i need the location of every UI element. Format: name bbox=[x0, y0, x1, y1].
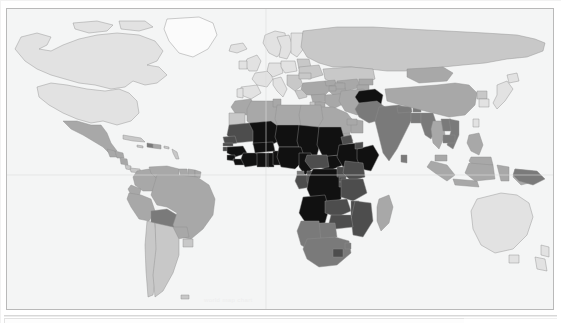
country-suriname bbox=[188, 169, 195, 177]
country-nicaragua bbox=[120, 158, 128, 165]
country-kyrgyzstan bbox=[359, 79, 373, 85]
country-tasmania bbox=[509, 255, 519, 263]
country-new-zealand-south bbox=[535, 257, 547, 271]
country-mongolia bbox=[407, 67, 453, 83]
country-japan-hokkaido bbox=[507, 73, 519, 83]
country-uae bbox=[347, 119, 357, 125]
country-bangladesh bbox=[411, 113, 421, 123]
country-ivory-coast bbox=[241, 153, 259, 167]
country-lesotho bbox=[333, 249, 343, 257]
country-romania bbox=[299, 73, 311, 79]
country-gambia bbox=[223, 143, 233, 146]
country-sri-lanka bbox=[401, 155, 407, 163]
country-ghana bbox=[257, 153, 269, 167]
country-georgia bbox=[325, 80, 336, 86]
country-burkina-faso bbox=[253, 142, 275, 153]
country-armenia bbox=[329, 86, 336, 91]
country-azerbaijan bbox=[335, 83, 345, 89]
country-dominican-republic bbox=[153, 144, 161, 149]
country-falklands bbox=[181, 295, 189, 299]
below-figure-panel bbox=[4, 318, 464, 323]
figure-bottom-rule-shadow bbox=[4, 316, 557, 317]
country-south-korea bbox=[479, 99, 489, 107]
below-figure-panel-right bbox=[464, 318, 557, 323]
country-malaysia bbox=[435, 155, 447, 161]
country-taiwan bbox=[473, 119, 479, 127]
map-watermark: world map chart bbox=[204, 297, 253, 303]
country-uruguay bbox=[183, 239, 193, 247]
figure-page: .c{stroke:#8f8f8f;stroke-width:0.45;stro… bbox=[0, 0, 561, 323]
country-eswatini bbox=[345, 243, 351, 249]
country-western-sahara bbox=[229, 113, 245, 125]
country-cambodia bbox=[443, 135, 455, 143]
country-portugal bbox=[237, 88, 243, 98]
world-map-figure: .c{stroke:#8f8f8f;stroke-width:0.45;stro… bbox=[6, 8, 554, 310]
country-ireland bbox=[239, 61, 247, 69]
world-choropleth-svg: .c{stroke:#8f8f8f;stroke-width:0.45;stro… bbox=[7, 9, 553, 309]
country-new-zealand-north bbox=[541, 245, 549, 257]
country-north-korea bbox=[477, 91, 487, 99]
world-map-canvas: .c{stroke:#8f8f8f;stroke-width:0.45;stro… bbox=[7, 9, 553, 309]
country-haiti bbox=[147, 143, 153, 148]
country-djibouti bbox=[355, 142, 363, 149]
